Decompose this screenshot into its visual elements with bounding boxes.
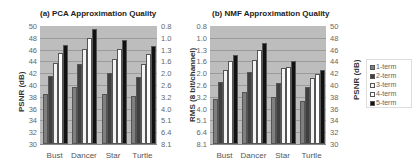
legend-swatch [370, 65, 375, 70]
y-tick-left: 2.6 [191, 81, 207, 90]
y-tick-left: 3.2 [191, 93, 207, 102]
legend-label: 5-term [376, 99, 396, 106]
legend-swatch [370, 101, 375, 106]
legend-item: 3-term [370, 81, 396, 88]
y-tick-left: 4.0 [191, 105, 207, 114]
bar [233, 55, 238, 144]
legend-item: 2-term [370, 72, 396, 79]
bar [262, 43, 267, 144]
y-tick-left: 1.0 [191, 34, 207, 43]
y-tick-left: 1.3 [191, 46, 207, 55]
y-tick-left: 2.0 [191, 69, 207, 78]
y-tick-right: 44 [330, 57, 350, 66]
bar [291, 61, 296, 144]
legend-swatch [370, 92, 375, 97]
legend: 1-term 2-term 3-term 4-term 5-term [366, 59, 412, 108]
y-tick-right: 50 [330, 22, 350, 31]
y-tick-right: 42 [330, 69, 350, 78]
chart-nmf: (b) NMF Approximation Quality RMS (8 bit… [0, 0, 360, 166]
bar [320, 70, 325, 144]
y-tick-left: 5.1 [191, 116, 207, 125]
legend-swatch [370, 83, 375, 88]
legend-label: 2-term [376, 72, 396, 79]
y-tick-right: 36 [330, 105, 350, 114]
y-axis-title-right: PSNR (dB) [352, 60, 361, 100]
y-tick-right: 30 [330, 140, 350, 149]
y-tick-right: 38 [330, 93, 350, 102]
legend-label: 1-term [376, 63, 396, 70]
y-tick-right: 40 [330, 81, 350, 90]
legend-label: 3-term [376, 81, 396, 88]
y-tick-left: 6.4 [191, 128, 207, 137]
x-tick-label: Star [268, 151, 298, 160]
y-tick-right: 34 [330, 116, 350, 125]
x-tick-label: Dancer [239, 151, 269, 160]
legend-item: 4-term [370, 90, 396, 97]
chart-title: (b) NMF Approximation Quality [212, 9, 329, 18]
x-tick-label: Bust [210, 151, 240, 160]
gridline [210, 50, 326, 51]
legend-item: 5-term [370, 99, 396, 106]
y-tick-right: 32 [330, 128, 350, 137]
y-tick-left: 0.8 [191, 22, 207, 31]
legend-label: 4-term [376, 90, 396, 97]
y-tick-right: 46 [330, 46, 350, 55]
legend-item: 1-term [370, 63, 396, 70]
gridline [210, 38, 326, 39]
legend-swatch [370, 74, 375, 79]
y-tick-left: 1.6 [191, 57, 207, 66]
x-tick-label: Turtle [297, 151, 327, 160]
y-tick-left: 8.1 [191, 140, 207, 149]
y-tick-right: 48 [330, 34, 350, 43]
plot-area [210, 26, 326, 145]
